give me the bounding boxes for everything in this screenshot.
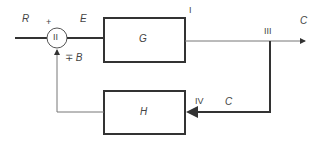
input-sign: + xyxy=(46,18,51,27)
point-iv-label: IV xyxy=(195,97,204,106)
g-label: G xyxy=(139,34,147,44)
input-label: R xyxy=(22,14,29,24)
feedback-sign: ∓ xyxy=(65,52,73,63)
junction-label: II xyxy=(53,33,58,42)
feedback-output-label: C xyxy=(225,97,232,107)
feedback-signal: B xyxy=(76,52,83,63)
point-i-label: I xyxy=(189,6,192,15)
h-label: H xyxy=(140,107,147,117)
error-label: E xyxy=(80,14,87,24)
feedback-sign-label: ∓ B xyxy=(65,53,82,63)
output-label: C xyxy=(300,16,307,26)
point-iii-label: III xyxy=(264,27,272,36)
